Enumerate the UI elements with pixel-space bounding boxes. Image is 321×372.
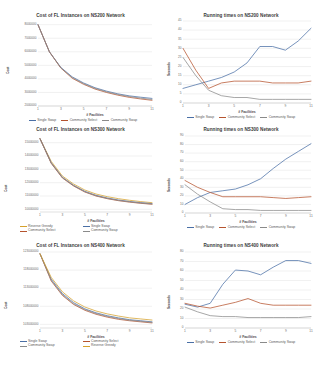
x-tick-label: 3: [204, 105, 214, 108]
x-tick-label: 7: [102, 330, 112, 333]
y-tick-label: 35: [161, 38, 182, 41]
y-tick-label: 0: [161, 101, 182, 104]
legend-swatch-icon: [83, 226, 90, 227]
y-tick-label: 0: [161, 326, 184, 329]
chart-legend: Single SwapCommunity SelectCommunity Swa…: [10, 119, 156, 122]
x-tick-label: 7: [101, 108, 111, 111]
legend-label: Single Swap: [195, 341, 214, 344]
x-tick-label: 1: [35, 330, 45, 333]
chart-legend: Single SwapCommunity SelectCommunity Swa…: [17, 340, 143, 348]
y-tick-label: 30: [161, 298, 184, 301]
x-tick-label: 5: [230, 215, 240, 218]
legend-item: Community Swap: [260, 116, 295, 119]
x-tick-label: 3: [57, 214, 67, 217]
legend-item: Single Swap: [187, 116, 214, 119]
legend-item: Community Select: [219, 341, 255, 344]
x-tick-label: 7: [256, 215, 266, 218]
y-tick-label: 50: [161, 169, 184, 172]
y-tick-label: 60: [161, 160, 184, 163]
y-tick-label: 12000000: [0, 181, 39, 184]
panel-cost-ns200: Cost of FL Instances on NS200 Network Co…: [0, 0, 161, 124]
y-tick-label: 2000000: [0, 104, 37, 107]
legend-swatch-icon: [83, 231, 90, 232]
x-axis-label: # Facilities: [40, 219, 152, 223]
x-tick-label: 9: [125, 214, 135, 217]
y-tick-label: 13000000: [0, 168, 39, 171]
chart-title: Running times on NS200 Network: [161, 13, 321, 18]
legend-item: Community Select: [61, 119, 97, 122]
legend-label: Community Swap: [269, 226, 296, 229]
x-tick-label: 1: [180, 330, 190, 333]
y-tick-label: 11000000: [0, 194, 39, 197]
legend-label: Community Swap: [111, 119, 138, 122]
legend-label: Single Swap: [37, 119, 56, 122]
x-tick-label: 11: [306, 330, 316, 333]
y-tick-label: 15000000: [0, 141, 39, 144]
plot-area: [40, 252, 152, 328]
y-tick-label: 10: [161, 317, 184, 320]
y-tick-label: 6000000: [0, 50, 37, 53]
y-tick-label: 40: [161, 177, 184, 180]
chart-legend: Single SwapCommunity SelectCommunity Swa…: [166, 116, 316, 119]
x-tick-label: 3: [57, 330, 67, 333]
y-tick-label: 90: [161, 134, 184, 137]
x-tick-label: 5: [229, 105, 239, 108]
legend-swatch-icon: [20, 226, 27, 227]
y-tick-label: 5000000: [0, 64, 37, 67]
x-axis-label: # Facilities: [185, 335, 311, 339]
legend-label: Community Select: [70, 119, 98, 122]
legend-swatch-icon: [219, 117, 226, 118]
chart-legend: Single SwapCommunity SelectCommunity Swa…: [166, 226, 316, 229]
x-tick-label: 9: [124, 108, 134, 111]
legend-item: Community Select: [20, 229, 78, 232]
y-tick-label: 8000000: [0, 23, 37, 26]
x-tick-label: 11: [147, 108, 157, 111]
x-tick-label: 11: [147, 330, 157, 333]
plot-area: [185, 136, 311, 213]
y-tick-label: 20: [161, 65, 182, 68]
legend-item: Community Swap: [102, 119, 137, 122]
y-tick-label: 14000000: [0, 154, 39, 157]
legend-label: Community Swap: [91, 229, 118, 232]
x-tick-label: 5: [80, 330, 90, 333]
y-tick-label: 123000000: [0, 250, 39, 253]
chart-title: Cost of FL Instances on NS400 Network: [0, 243, 161, 248]
y-tick-label: 40: [161, 28, 182, 31]
y-tick-label: 20: [161, 194, 184, 197]
y-tick-label: 108000000: [0, 305, 39, 308]
legend-swatch-icon: [20, 231, 27, 232]
panel-runtime-ns300: Running times on NS300 Network Seconds #…: [161, 124, 321, 239]
x-tick-label: 1: [180, 215, 190, 218]
plot-area: [183, 21, 311, 103]
y-tick-label: 103000000: [0, 323, 39, 326]
plot-area: [38, 22, 152, 106]
legend-label: Community Select: [228, 226, 256, 229]
y-tick-label: 80: [161, 143, 184, 146]
legend-item: Community Select: [219, 226, 255, 229]
legend-swatch-icon: [219, 227, 226, 228]
y-tick-label: 0: [161, 211, 184, 214]
y-tick-label: 10: [161, 203, 184, 206]
legend-swatch-icon: [219, 342, 226, 343]
x-tick-label: 1: [178, 105, 188, 108]
legend-swatch-icon: [187, 342, 194, 343]
y-tick-label: 20: [161, 307, 184, 310]
y-axis-label: Cost: [6, 67, 10, 74]
y-tick-label: 70: [161, 151, 184, 154]
y-tick-label: 118000000: [0, 268, 39, 271]
chart-title: Cost of FL Instances on NS300 Network: [0, 127, 161, 132]
chart-title: Running times on NS400 Network: [161, 243, 321, 248]
legend-label: Single Swap: [195, 226, 214, 229]
panel-cost-ns400: Cost of FL Instances on NS400 Network Co…: [0, 239, 161, 372]
legend-swatch-icon: [20, 346, 27, 347]
legend-swatch-icon: [61, 120, 68, 121]
y-tick-label: 7000000: [0, 37, 37, 40]
plot-area: [185, 252, 311, 328]
legend-swatch-icon: [187, 117, 194, 118]
x-tick-label: 1: [33, 108, 43, 111]
legend-item: Community Swap: [260, 226, 295, 229]
legend-item: Single Swap: [187, 341, 214, 344]
plot-area: [40, 136, 152, 212]
x-tick-label: 5: [230, 330, 240, 333]
x-tick-label: 3: [205, 330, 215, 333]
